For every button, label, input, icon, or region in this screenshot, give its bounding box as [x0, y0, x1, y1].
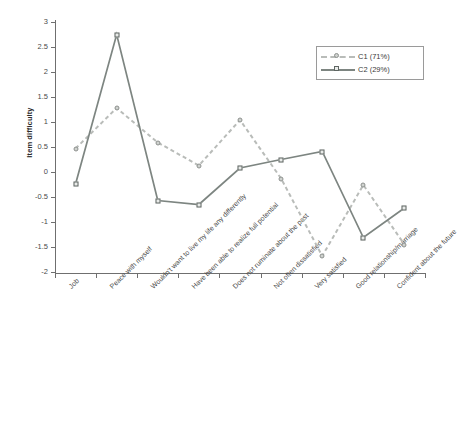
legend-label-c1: C1 (71%) — [355, 52, 390, 61]
data-point-2-8 — [361, 235, 366, 240]
data-point-2-4 — [196, 202, 201, 207]
data-point-2-7 — [320, 149, 325, 154]
data-point-1-1 — [73, 146, 78, 151]
data-point-1-4 — [196, 163, 201, 168]
legend-swatch-solid-square — [321, 64, 355, 75]
data-point-1-5 — [238, 118, 243, 123]
data-point-1-6 — [279, 176, 284, 181]
data-point-2-2 — [114, 32, 119, 37]
data-point-2-6 — [279, 157, 284, 162]
chart-figure: Item difficulty 32.521.510.50-0.5-1-1.5-… — [0, 0, 460, 421]
plot-area: Item difficulty 32.521.510.50-0.5-1-1.5-… — [0, 0, 460, 421]
data-point-2-3 — [155, 198, 160, 203]
series-line-1 — [76, 108, 405, 256]
data-point-2-9 — [402, 206, 407, 211]
data-point-1-3 — [155, 140, 160, 145]
legend-item-c1[interactable]: C1 (71%) — [321, 50, 419, 63]
data-point-1-7 — [320, 254, 325, 259]
data-point-2-1 — [73, 182, 78, 187]
data-point-2-5 — [238, 166, 243, 171]
data-point-1-8 — [361, 183, 366, 188]
legend-item-c2[interactable]: C2 (29%) — [321, 63, 419, 76]
data-point-1-2 — [114, 106, 119, 111]
legend: C1 (71%) C2 (29%) — [316, 46, 424, 80]
data-point-1-9 — [402, 242, 407, 247]
legend-label-c2: C2 (29%) — [355, 65, 390, 74]
legend-swatch-dashed-circle — [321, 51, 355, 62]
